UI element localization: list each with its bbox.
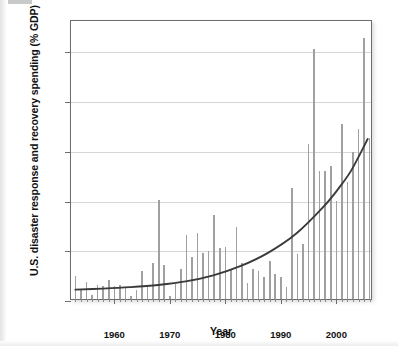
x-tick-minor [270,299,271,302]
bar [186,235,188,299]
y-gridline [71,152,371,153]
y-tick-mark [65,202,71,203]
x-tick-mark [225,299,226,304]
y-tick-mark [65,52,71,53]
bar [319,171,321,299]
plot-inner [71,21,371,299]
x-tick-minor [98,299,99,302]
x-tick-minor [142,299,143,302]
x-tick-minor [264,299,265,302]
y-gridline [71,52,371,53]
bar [336,201,338,299]
x-tick-minor [231,299,232,302]
bar [219,248,221,299]
x-tick-minor [186,299,187,302]
x-tick-minor [303,299,304,302]
bar [236,227,238,299]
x-tick-minor [175,299,176,302]
x-tick-minor [314,299,315,302]
x-tick-minor [325,299,326,302]
x-tick-minor [203,299,204,302]
bar [141,271,143,299]
bar [108,280,110,299]
x-tick-minor [131,299,132,302]
bar [158,200,160,299]
bar [286,287,288,299]
x-tick-minor [298,299,299,302]
bar [269,261,271,299]
bar [302,244,304,299]
x-tick-minor [331,299,332,302]
bar [147,287,149,299]
x-tick-minor [286,299,287,302]
bar [136,290,138,299]
x-tick-minor [342,299,343,302]
x-tick-minor [198,299,199,302]
bar [308,144,310,299]
x-tick-minor [103,299,104,302]
bar [369,138,371,299]
bar [213,215,215,299]
y-tick-mark [65,102,71,103]
bar [291,188,293,299]
x-tick-minor [209,299,210,302]
y-tick-mark [65,251,71,252]
bar [241,263,243,299]
plot-area: 0.00%.05%0.10%0.15%0.20%0.25%19601970198… [70,20,372,300]
bar [347,182,349,299]
bar [119,285,121,299]
y-tick-mark [65,301,71,302]
x-tick-minor [192,299,193,302]
x-tick-minor [164,299,165,302]
bar [352,152,354,299]
x-tick-minor [292,299,293,302]
bar [152,263,154,299]
bar [191,257,193,299]
x-tick-minor [236,299,237,302]
x-tick-minor [125,299,126,302]
bar [202,253,204,299]
x-tick-mark [336,299,337,304]
y-gridline [71,102,371,103]
x-tick-minor [370,299,371,302]
y-tick-mark [65,152,71,153]
scan-edge-left [0,0,6,346]
x-tick-minor [214,299,215,302]
x-tick-mark [114,299,115,304]
x-tick-minor [253,299,254,302]
bar [175,284,177,299]
y-axis-title: U.S. disaster response and recovery spen… [28,16,40,276]
x-tick-minor [220,299,221,302]
x-tick-mark [281,299,282,304]
x-tick-minor [159,299,160,302]
bar [125,287,127,299]
x-tick-minor [75,299,76,302]
x-tick-label: 1990 [270,329,291,340]
x-tick-label: 1980 [215,329,236,340]
bar [252,269,254,299]
bar [313,49,315,299]
x-tick-minor [109,299,110,302]
chart-figure: U.S. disaster response and recovery spen… [0,0,398,346]
bar [280,277,282,299]
x-tick-minor [92,299,93,302]
bar [180,269,182,299]
x-tick-minor [87,299,88,302]
x-tick-minor [181,299,182,302]
bar [263,277,265,299]
bar [86,282,88,299]
bar [163,265,165,299]
x-tick-minor [242,299,243,302]
bar [324,171,326,299]
x-tick-label: 1960 [104,329,125,340]
bar [80,289,82,299]
bar [258,271,260,299]
bar [197,233,199,299]
x-tick-minor [148,299,149,302]
bar [363,38,365,299]
scan-corner-mark [8,0,32,4]
x-tick-label: 1970 [159,329,180,340]
x-tick-minor [309,299,310,302]
x-tick-mark [170,299,171,304]
bar [341,124,343,299]
